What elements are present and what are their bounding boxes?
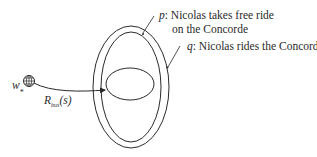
set-p-text: : Nicolas takes free ride <box>165 9 274 21</box>
set-p-label-line2: on the Concorde <box>172 23 248 36</box>
set-q-ellipse <box>93 26 169 148</box>
set-p-ellipse <box>101 32 161 142</box>
set-q-label: q: Nicolas rides the Concorde <box>187 40 317 53</box>
set-p-label: p: Nicolas takes free ride <box>159 9 274 22</box>
relation-name: R <box>44 94 51 106</box>
diagram-canvas <box>0 0 317 157</box>
set-q-text: : Nicolas rides the Concorde <box>193 40 317 52</box>
world-label: w* <box>12 79 24 96</box>
diagram: w* Rbus(s) p: Nicolas takes free ride on… <box>0 0 317 157</box>
p-leader-line <box>143 16 154 33</box>
relation-argument: (s) <box>59 94 71 106</box>
accessible-worlds-ellipse <box>106 68 154 100</box>
set-p-text-line2: on the Concorde <box>172 23 248 35</box>
q-leader-line <box>168 46 180 67</box>
relation-label: Rbus(s) <box>44 94 72 112</box>
globe-icon <box>24 76 35 87</box>
world-subscript: * <box>20 88 24 97</box>
world-letter: w <box>12 79 20 91</box>
relation-arrow <box>34 83 105 91</box>
